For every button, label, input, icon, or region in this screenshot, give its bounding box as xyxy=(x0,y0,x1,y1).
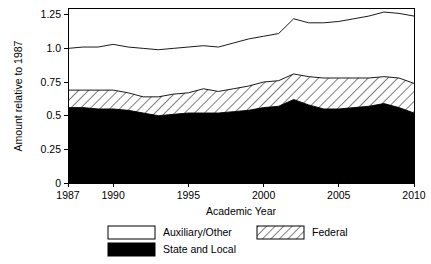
legend-swatch-federal xyxy=(257,226,304,239)
x-tick-label-5: 2010 xyxy=(402,189,426,201)
x-tick-label-1: 1990 xyxy=(101,189,125,201)
area-state-and-local xyxy=(68,100,414,183)
x-tick-label-3: 2000 xyxy=(252,189,276,201)
x-axis-title: Academic Year xyxy=(206,205,277,217)
chart-figure: 00.250.50.751.01.25 19871990199520002005… xyxy=(0,0,431,264)
y-axis-title: Amount relative to 1987 xyxy=(12,40,24,151)
legend-label-auxiliary-other: Auxiliary/Other xyxy=(163,226,232,238)
y-tick-label-0: 0 xyxy=(55,177,61,189)
legend-label-state-and-local: State and Local xyxy=(163,243,236,255)
y-tick-label-4: 1.0 xyxy=(46,42,61,54)
y-tick-label-1: 0.25 xyxy=(41,143,62,155)
x-tick-label-0: 1987 xyxy=(56,189,80,201)
legend-swatch-auxiliary-other xyxy=(108,226,155,239)
y-tick-label-5: 1.25 xyxy=(41,8,62,20)
stacked-area-chart: 00.250.50.751.01.25 19871990199520002005… xyxy=(0,0,431,264)
y-tick-label-3: 0.75 xyxy=(41,76,62,88)
legend-swatch-state-and-local xyxy=(108,243,155,256)
x-tick-label-4: 2005 xyxy=(327,189,351,201)
y-tick-label-2: 0.5 xyxy=(46,109,61,121)
legend-label-federal: Federal xyxy=(312,226,348,238)
x-tick-label-2: 1995 xyxy=(177,189,201,201)
